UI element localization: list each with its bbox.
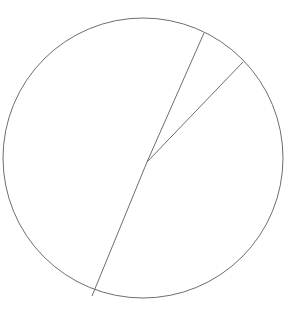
geometry-figure-canvas bbox=[0, 0, 304, 316]
circle-outline bbox=[3, 18, 283, 298]
radius-line-lower-left bbox=[92, 162, 147, 296]
radius-line-upper-right bbox=[147, 62, 243, 162]
geometry-diagram-svg bbox=[0, 0, 304, 316]
radius-line-upper-left bbox=[147, 33, 204, 162]
